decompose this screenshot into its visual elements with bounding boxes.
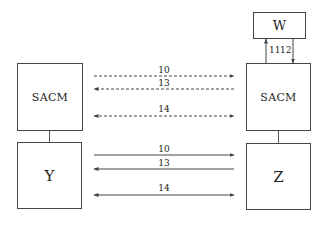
dashed-arrow-10-label: 10 <box>158 66 169 75</box>
arrow-11-label: 11 <box>269 46 280 55</box>
solid-arrow-13-label: 13 <box>158 159 169 168</box>
dashed-arrow-13-label: 13 <box>158 79 169 88</box>
solid-arrow-14-label: 14 <box>158 184 169 193</box>
solid-arrow-10-label: 10 <box>158 145 169 154</box>
dashed-arrow-14-label: 14 <box>158 105 169 114</box>
arrow-12-label: 12 <box>280 46 291 55</box>
